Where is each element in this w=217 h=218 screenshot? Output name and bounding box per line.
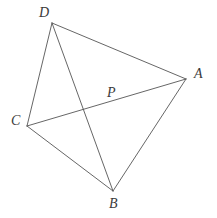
vertex-label-B: B: [109, 197, 118, 211]
figure-canvas: [0, 0, 217, 218]
vertex-label-P: P: [107, 86, 116, 100]
segment-CD: [27, 23, 52, 126]
vertex-label-C: C: [11, 114, 20, 128]
vertex-label-A: A: [194, 67, 203, 81]
segment-DA: [52, 23, 186, 79]
edges-group: [27, 23, 186, 191]
segment-AB: [113, 79, 186, 191]
segment-DB: [52, 23, 113, 191]
vertex-label-D: D: [39, 6, 49, 20]
segment-BC: [27, 126, 113, 191]
geometry-figure: D A C B P: [0, 0, 217, 218]
